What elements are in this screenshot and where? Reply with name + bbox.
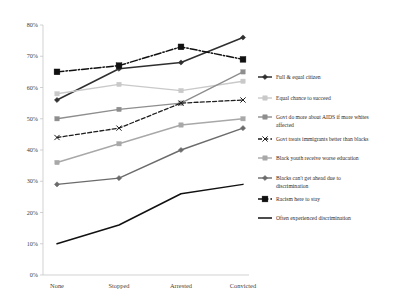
series-line (57, 119, 243, 163)
line-chart: 0%10%20%30%40%50%60%70%80%NoneStoppedArr… (0, 0, 413, 303)
data-point-marker (179, 88, 183, 92)
data-point-marker (54, 182, 59, 187)
data-point-marker (241, 70, 245, 74)
data-point-marker (55, 160, 59, 164)
x-tick-label: Stopped (109, 282, 131, 289)
series-line (57, 47, 243, 72)
legend-label: discrimination (276, 183, 309, 189)
x-tick-label: Arrested (170, 282, 193, 289)
data-point-marker (178, 60, 183, 65)
data-point-marker (55, 117, 59, 121)
y-tick-label: 0% (30, 271, 38, 278)
series-line (57, 72, 243, 119)
series-4 (55, 117, 245, 165)
data-point-marker (241, 79, 245, 83)
data-point-marker (117, 82, 121, 86)
data-point-marker (178, 147, 183, 152)
data-point-marker (116, 126, 121, 131)
data-point-marker (117, 142, 121, 146)
data-point-marker (54, 69, 60, 75)
legend-item-3[interactable]: Govt treats immigrants better than black… (258, 136, 368, 142)
series-2 (55, 70, 245, 121)
data-point-marker (240, 126, 245, 131)
data-point-marker (178, 44, 184, 50)
data-point-marker (262, 74, 267, 79)
legend-label: Full & equal citizen (276, 74, 321, 80)
legend-label: Blacks can't get ahead due to (276, 175, 341, 181)
data-point-marker (263, 156, 267, 160)
y-tick-label: 70% (27, 52, 38, 59)
legend-label: Equal chance to succeed (276, 95, 331, 101)
series-7 (57, 184, 243, 243)
y-tick-label: 30% (27, 177, 38, 184)
legend-label: affected (276, 122, 294, 128)
y-tick-label: 60% (27, 84, 38, 91)
x-tick-label: None (50, 282, 64, 289)
legend-label: Often experienced discrimination (276, 215, 351, 221)
series-line (57, 184, 243, 243)
legend-label: Racism here to stay (276, 196, 320, 202)
legend-item-0[interactable]: Full & equal citizen (258, 74, 321, 80)
y-tick-label: 10% (27, 240, 38, 247)
legend-label: Black youth receive worse education (276, 155, 359, 161)
chart-svg: 0%10%20%30%40%50%60%70%80%NoneStoppedArr… (0, 0, 413, 303)
y-tick-label: 40% (27, 146, 38, 153)
y-tick-label: 20% (27, 209, 38, 216)
legend-label: Govt treats immigrants better than black… (276, 136, 368, 142)
data-point-marker (117, 107, 121, 111)
data-point-marker (116, 63, 122, 69)
data-point-marker (54, 97, 59, 102)
legend-item-7[interactable]: Often experienced discrimination (258, 215, 351, 221)
legend-label: Govt do more about AIDS if more whites (276, 114, 369, 120)
legend-item-5[interactable]: Blacks can't get ahead due todiscriminat… (258, 175, 341, 189)
data-point-marker (263, 96, 267, 100)
data-point-marker (179, 123, 183, 127)
y-tick-label: 50% (27, 115, 38, 122)
series-line (57, 128, 243, 184)
legend-item-6[interactable]: Racism here to stay (258, 196, 320, 202)
data-point-marker (240, 35, 245, 40)
legend-item-4[interactable]: Black youth receive worse education (258, 155, 359, 161)
data-point-marker (262, 175, 267, 180)
data-point-marker (116, 176, 121, 181)
legend-item-2[interactable]: Govt do more about AIDS if more whitesaf… (258, 114, 369, 128)
series-line (57, 81, 243, 94)
data-point-marker (262, 196, 268, 202)
data-point-marker (55, 92, 59, 96)
data-point-marker (241, 117, 245, 121)
legend-item-1[interactable]: Equal chance to succeed (258, 95, 331, 101)
data-point-marker (263, 115, 267, 119)
x-tick-label: Convicted (230, 282, 257, 289)
data-point-marker (240, 56, 246, 62)
y-tick-label: 80% (27, 21, 38, 28)
